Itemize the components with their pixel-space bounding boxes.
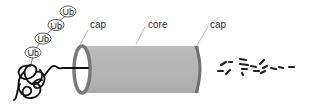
polyubiquitin-chain: Ub Ub Ub Ub	[25, 6, 76, 64]
proteasome-cap-left	[74, 46, 90, 93]
ubiquitin-tag: Ub	[48, 20, 64, 31]
cap-right-label: cap	[210, 19, 227, 30]
proteasome-core	[82, 46, 200, 93]
ubiquitin-tag: Ub	[25, 47, 41, 58]
proteasome-diagram: cap core cap Ub Ub Ub Ub	[0, 0, 318, 105]
svg-text:Ub: Ub	[63, 7, 75, 17]
svg-text:Ub: Ub	[28, 48, 40, 58]
svg-text:Ub: Ub	[51, 21, 63, 31]
core-label: core	[148, 19, 168, 30]
ubiquitin-tag: Ub	[35, 33, 51, 44]
peptide-fragments	[218, 59, 294, 75]
svg-text:Ub: Ub	[38, 34, 50, 44]
ubiquitin-tag: Ub	[60, 6, 76, 17]
cap-left-label: cap	[90, 19, 107, 30]
